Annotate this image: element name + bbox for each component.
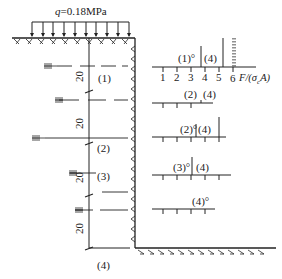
bar2-left-label: (2) (184, 89, 197, 100)
load-arrowheads (30, 33, 131, 37)
scale-bar-4 (152, 157, 231, 180)
bar4-left-label: (3)° (173, 162, 190, 173)
bar5-left-label: (4)° (192, 196, 209, 207)
dimension-label-4: 20 (74, 223, 85, 234)
tick-1: 1 (160, 72, 166, 83)
scale-bar-2 (152, 100, 213, 108)
anchors (45, 66, 128, 210)
load-value: =0.18MPa (61, 5, 107, 17)
ground-hatch (14, 39, 128, 44)
dimension-label-2: 20 (74, 118, 85, 129)
dimension-label-1: 20 (74, 71, 85, 82)
stage-label-2: (2) (97, 143, 110, 154)
load-arrows (32, 22, 129, 36)
tick-3: 3 (188, 72, 194, 83)
stage-label-4: (4) (97, 260, 110, 271)
dimension-label-3: 20 (74, 172, 85, 183)
bar4-right-label: (4) (196, 162, 209, 173)
axis-label: F/(σcA) (239, 72, 270, 88)
bar3-right-label: (4) (198, 124, 211, 135)
stage-label-3: (3) (97, 171, 110, 182)
diagram-canvas (0, 0, 282, 279)
tick-5: 5 (216, 72, 222, 83)
tick-6: 6 (230, 73, 236, 84)
tick-4: 4 (202, 72, 208, 83)
scale-bar-5 (152, 209, 215, 214)
tick-2: 2 (174, 72, 180, 83)
load-label: q=0.18MPa (55, 6, 107, 17)
bottom-hatch (138, 250, 264, 254)
bar1-left-label: (1)° (178, 53, 195, 64)
bar2-right-label: (4) (203, 89, 216, 100)
stage-label-1: (1) (98, 73, 111, 84)
bar3-left-label: (2)° (180, 124, 197, 135)
bar1-right-label: (4) (204, 53, 217, 64)
